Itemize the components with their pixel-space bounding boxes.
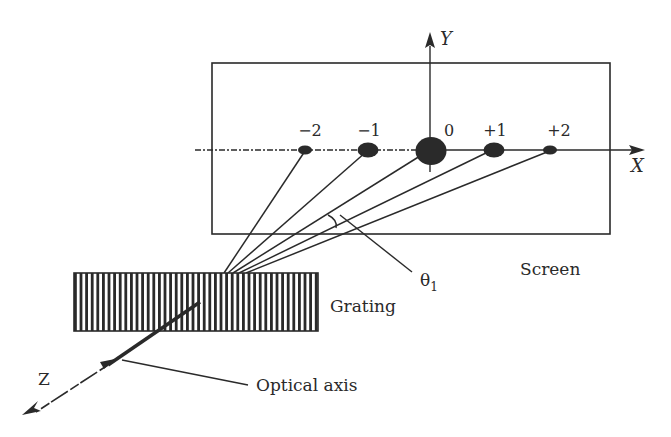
- optical-axis-label: Optical axis: [256, 375, 357, 395]
- ray-order-minus-1: [228, 152, 366, 273]
- y-axis-label: Y: [440, 28, 454, 49]
- order-label-plus-1: +1: [483, 121, 507, 140]
- y-axis-arrow-icon: [425, 32, 435, 48]
- spot-order-plus-1: [484, 143, 505, 158]
- z-axis-label: Z: [38, 369, 50, 389]
- x-axis-label: X: [629, 155, 645, 176]
- optical-axis-mid-arrow-icon: [100, 359, 115, 369]
- order-label-minus-2: −2: [298, 121, 322, 140]
- order-label-plus-2: +2: [547, 121, 571, 140]
- spot-order-minus-1: [358, 143, 379, 158]
- grating-label: Grating: [330, 296, 396, 316]
- optical-axis-leader-line: [122, 360, 248, 385]
- spot-order-0: [416, 137, 447, 165]
- spot-order-minus-2: [298, 146, 312, 155]
- spot-order-plus-2: [543, 146, 557, 155]
- grating: [74, 273, 318, 331]
- order-label-0: 0: [444, 121, 454, 140]
- angle-label: θ1: [420, 270, 438, 294]
- diffraction-rays: [224, 151, 547, 273]
- angle-leader-line: [340, 215, 412, 272]
- diffraction-diagram: Y X −2 −1 0 +1 +2 θ1 Screen Grating Z Op…: [0, 0, 671, 437]
- z-axis-arrow-icon: [22, 401, 41, 415]
- order-label-minus-1: −1: [357, 121, 381, 140]
- screen-label: Screen: [520, 259, 580, 279]
- ray-order-plus-1: [239, 152, 488, 273]
